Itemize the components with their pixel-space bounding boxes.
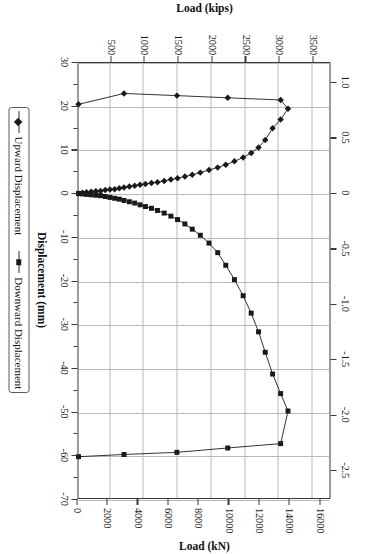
data-point-diamond <box>239 154 245 160</box>
series-upward <box>75 90 291 197</box>
data-point-diamond <box>214 164 220 170</box>
data-point-square <box>155 208 160 213</box>
tick-label-y-right: 2000 <box>102 508 113 528</box>
data-point-square <box>278 441 283 446</box>
tick-label-y-right: 10000 <box>223 508 234 533</box>
data-point-diamond <box>102 187 108 193</box>
data-point-square <box>248 311 253 316</box>
tick-x-top <box>330 304 336 305</box>
tick-x-top <box>330 137 336 138</box>
tick-x-minor <box>74 390 78 391</box>
tick-label-y-right: 12000 <box>254 508 265 533</box>
tick-x-top <box>330 193 336 194</box>
data-point-diamond <box>126 183 132 189</box>
data-point-diamond <box>106 186 112 192</box>
tick-y <box>278 56 279 62</box>
tick-label-x-top: -1.0 <box>339 296 350 312</box>
tick-x-top <box>330 359 336 360</box>
tick-label-y-right: 14000 <box>284 508 295 533</box>
tick-x <box>71 412 77 413</box>
tick-x <box>71 368 77 369</box>
tick-label-x-top: 0 <box>339 190 350 195</box>
tick-x-top <box>330 82 336 83</box>
tick-label-y-right: 4000 <box>132 508 143 528</box>
data-point-diamond <box>167 176 173 182</box>
legend-label-upward: Upward Displacement <box>13 137 25 236</box>
data-point-diamond <box>173 92 179 98</box>
series-line <box>78 93 288 193</box>
chart-legend: Upward Displacement Downward Displacemen… <box>8 107 29 393</box>
gridline-vertical <box>78 500 329 501</box>
tick-x-top <box>330 470 336 471</box>
data-point-diamond <box>247 150 253 156</box>
data-point-square <box>80 191 85 196</box>
tick-x-minor <box>74 346 78 347</box>
data-point-diamond <box>120 90 126 96</box>
tick-x-minor <box>74 302 78 303</box>
tick-x-minor <box>74 433 78 434</box>
y-axis-title-left: Load (kips) <box>176 2 233 14</box>
tick-y-right <box>76 499 77 505</box>
tick-x <box>71 237 77 238</box>
data-point-diamond <box>111 186 117 192</box>
tick-y-right <box>106 499 107 505</box>
data-point-diamond <box>284 105 290 111</box>
data-point-diamond <box>197 169 203 175</box>
data-point-diamond <box>148 180 154 186</box>
data-point-square <box>206 241 211 246</box>
tick-x-minor <box>74 477 78 478</box>
data-point-square <box>116 197 121 202</box>
tick-label-y-right: 6000 <box>163 508 174 528</box>
tick-y-right <box>258 499 259 505</box>
data-point-square <box>137 202 142 207</box>
tick-x <box>71 106 77 107</box>
data-series-layer <box>78 63 329 498</box>
data-point-square <box>174 450 179 455</box>
data-point-square <box>121 198 126 203</box>
data-point-square <box>126 199 131 204</box>
data-point-diamond <box>142 181 148 187</box>
tick-y <box>211 56 212 62</box>
tick-label-x-top: -2.0 <box>339 407 350 423</box>
tick-x <box>71 193 77 194</box>
data-point-diamond <box>116 185 122 191</box>
data-point-diamond <box>131 182 137 188</box>
tick-label-y-right: 8000 <box>193 508 204 528</box>
tick-label-x: 20 <box>58 101 69 111</box>
tick-x-minor <box>74 259 78 260</box>
data-point-diamond <box>181 173 187 179</box>
tick-label-x-top: 1.0 <box>339 76 350 89</box>
tick-label-x: 0 <box>58 191 69 196</box>
data-point-square <box>223 263 228 268</box>
tick-y <box>143 56 144 62</box>
tick-label-x: -70 <box>58 492 69 505</box>
tick-y-right <box>228 499 229 505</box>
series-downward <box>76 191 290 459</box>
data-point-diamond <box>120 184 126 190</box>
data-point-square <box>278 391 283 396</box>
tick-label-y: 2000 <box>206 22 217 55</box>
data-point-diamond <box>189 172 195 178</box>
legend-entry-upward: Upward Displacement <box>13 111 25 236</box>
tick-label-x: 30 <box>58 57 69 67</box>
x-axis-title: Displacement (mm) <box>35 232 47 328</box>
tick-x <box>71 324 77 325</box>
legend-entry-downward: Downward Displacement <box>13 251 25 389</box>
tick-y <box>244 56 245 62</box>
tick-y <box>312 56 313 62</box>
tick-x <box>71 455 77 456</box>
tick-label-x: -10 <box>58 230 69 243</box>
data-point-square <box>285 409 290 414</box>
tick-x-top <box>330 248 336 249</box>
data-point-diamond <box>222 162 228 168</box>
tick-label-x-top: -2.5 <box>339 462 350 478</box>
tick-label-y: 2500 <box>240 22 251 55</box>
tick-x-minor <box>74 84 78 85</box>
data-point-square <box>142 204 147 209</box>
tick-label-x: -60 <box>58 449 69 462</box>
tick-label-x: -50 <box>58 405 69 418</box>
data-point-diamond <box>224 95 230 101</box>
data-point-square <box>197 233 202 238</box>
data-point-square <box>231 277 236 282</box>
data-point-square <box>240 293 245 298</box>
